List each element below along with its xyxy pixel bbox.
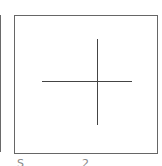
crosshair-panel xyxy=(14,15,158,154)
left-panel-partial xyxy=(0,15,1,152)
crosshair-vertical-line xyxy=(97,39,98,125)
caption-fragment-left: S xyxy=(17,158,24,166)
crosshair-horizontal-line xyxy=(42,81,132,82)
caption-fragment-right: 2 xyxy=(82,158,89,166)
